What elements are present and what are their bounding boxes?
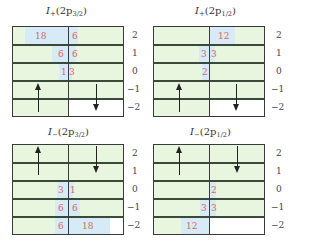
empty-cell — [110, 217, 123, 234]
empty-cell — [210, 217, 264, 234]
number: 18 — [35, 31, 46, 41]
spin-divider — [209, 144, 210, 235]
m-label: −2 — [127, 220, 140, 230]
m-label: 2 — [132, 30, 138, 40]
number: 2 — [211, 185, 217, 195]
m-label: 1 — [276, 166, 282, 176]
title-open: (2p — [56, 5, 73, 16]
m-label: 0 — [132, 66, 138, 76]
number: 6 — [72, 31, 78, 41]
number: 6 — [72, 203, 78, 213]
number: 18 — [82, 221, 93, 231]
panel-title: I+(2p3/2) — [46, 5, 87, 18]
number: 3 — [69, 67, 75, 77]
number: 3 — [201, 203, 207, 213]
number: 6 — [72, 49, 78, 59]
number: 12 — [186, 221, 197, 231]
m-label: −2 — [271, 102, 284, 112]
m-label: 2 — [132, 148, 138, 158]
title-close: ) — [227, 126, 231, 137]
spin-divider — [209, 26, 210, 117]
title-close: ) — [85, 126, 89, 137]
m-label: 2 — [276, 30, 282, 40]
title-close: ) — [83, 5, 87, 16]
title-open: (2p — [58, 126, 75, 137]
m-label: −2 — [127, 102, 140, 112]
number: 6 — [58, 221, 64, 231]
panel-title: I−(2p1/2) — [190, 126, 231, 139]
highlight-band — [25, 27, 78, 44]
title-sub: 3/2 — [73, 10, 83, 18]
m-label: 0 — [276, 66, 282, 76]
number: 3 — [211, 49, 217, 59]
number: 1 — [61, 67, 67, 77]
m-label: −1 — [271, 202, 284, 212]
panel-title: I+(2p1/2) — [195, 5, 236, 18]
number: 3 — [211, 203, 217, 213]
title-open: (2p — [200, 126, 217, 137]
title-close: ) — [232, 5, 236, 16]
title-sub: 3/2 — [75, 131, 85, 139]
number: 3 — [201, 49, 207, 59]
m-label: 1 — [276, 48, 282, 58]
title-open: (2p — [205, 5, 222, 16]
m-label: −2 — [271, 220, 284, 230]
m-label: 0 — [276, 184, 282, 194]
number: 6 — [58, 49, 64, 59]
number: 6 — [58, 203, 64, 213]
m-label: −1 — [127, 202, 140, 212]
number: 12 — [218, 31, 229, 41]
title-sub: 1/2 — [222, 10, 232, 18]
spin-divider — [68, 144, 69, 235]
m-label: −1 — [271, 84, 284, 94]
number: 2 — [202, 67, 208, 77]
m-label: −1 — [127, 84, 140, 94]
number: 3 — [58, 185, 64, 195]
m-label: 1 — [132, 48, 138, 58]
m-label: 0 — [132, 184, 138, 194]
m-label: 1 — [132, 166, 138, 176]
panel-title: I−(2p3/2) — [48, 126, 89, 139]
m-label: 2 — [276, 148, 282, 158]
title-sub: 1/2 — [217, 131, 227, 139]
number: 1 — [70, 185, 76, 195]
